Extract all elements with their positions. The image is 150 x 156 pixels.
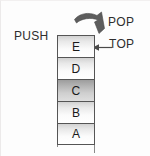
stack-cell-a: A xyxy=(57,123,95,145)
stack-cell-label: B xyxy=(72,107,80,119)
top-label: TOP xyxy=(109,37,134,51)
stack-diagram: PUSH POP TOP E D C B A xyxy=(0,0,150,156)
stack-cell-label: D xyxy=(72,63,81,75)
stack-cell-c: C xyxy=(57,79,95,101)
stack-cell-d: D xyxy=(57,57,95,79)
stack-cell-label: C xyxy=(72,85,81,97)
stack-cells-container: E D C B A xyxy=(57,35,95,145)
pop-label: POP xyxy=(108,15,134,29)
stack-cell-label: A xyxy=(72,128,80,140)
stack-cell-e: E xyxy=(57,35,95,57)
stack-cell-label: E xyxy=(72,41,80,53)
stack-cell-b: B xyxy=(57,101,95,123)
push-label: PUSH xyxy=(14,29,49,43)
